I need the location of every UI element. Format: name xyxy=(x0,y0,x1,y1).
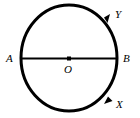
point-label-x: X xyxy=(116,99,123,110)
arrowhead-x-icon xyxy=(104,97,113,105)
point-label-a: A xyxy=(6,53,13,64)
circle-diagram-figure: A B O Y X xyxy=(0,0,140,118)
center-point-marker xyxy=(67,57,71,61)
point-label-o-center: O xyxy=(64,64,72,75)
point-label-b: B xyxy=(123,53,130,64)
point-label-y: Y xyxy=(115,9,121,20)
